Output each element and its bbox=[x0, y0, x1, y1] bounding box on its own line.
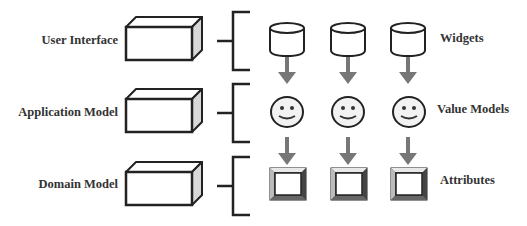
smiley-face-icon bbox=[271, 97, 303, 127]
beveled-square-icon bbox=[331, 168, 367, 200]
arrow-down-icon bbox=[278, 137, 296, 165]
bracket-domain-model bbox=[217, 157, 250, 215]
bracket-application-model bbox=[217, 84, 250, 142]
layer-box-application-model bbox=[126, 89, 202, 132]
arrow-down-icon bbox=[339, 56, 357, 84]
bracket-user-interface bbox=[217, 12, 250, 70]
layer-box-user-interface bbox=[126, 17, 202, 60]
layer-box-domain-model bbox=[126, 162, 202, 205]
beveled-square-icon bbox=[391, 168, 427, 200]
cylinder-icon bbox=[331, 23, 365, 56]
architecture-diagram bbox=[0, 0, 527, 226]
beveled-square-icon bbox=[270, 168, 306, 200]
arrow-down-icon bbox=[399, 56, 417, 84]
smiley-face-icon bbox=[393, 97, 425, 127]
arrow-down-icon bbox=[399, 137, 417, 165]
arrow-down-icon bbox=[339, 137, 357, 165]
cylinder-icon bbox=[270, 23, 304, 56]
smiley-face-icon bbox=[332, 97, 364, 127]
cylinder-icon bbox=[391, 23, 425, 56]
arrow-down-icon bbox=[278, 56, 296, 84]
